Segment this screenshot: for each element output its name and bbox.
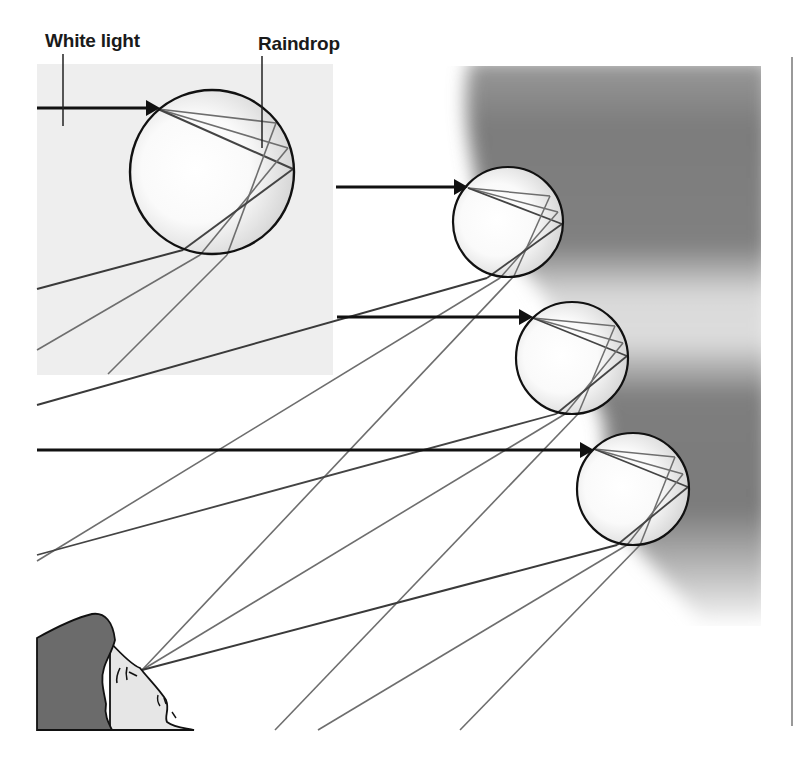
- rainbow-formation-diagram: [0, 0, 795, 760]
- hair: [37, 614, 115, 730]
- white-light-label: White light: [45, 30, 140, 52]
- raindrop-label: Raindrop: [258, 33, 340, 55]
- raindrop-2: [516, 302, 628, 414]
- raindrop-3: [577, 433, 689, 545]
- raindrop-magnified: [130, 90, 294, 255]
- observer-head: [37, 614, 194, 730]
- raindrop-1: [453, 167, 563, 278]
